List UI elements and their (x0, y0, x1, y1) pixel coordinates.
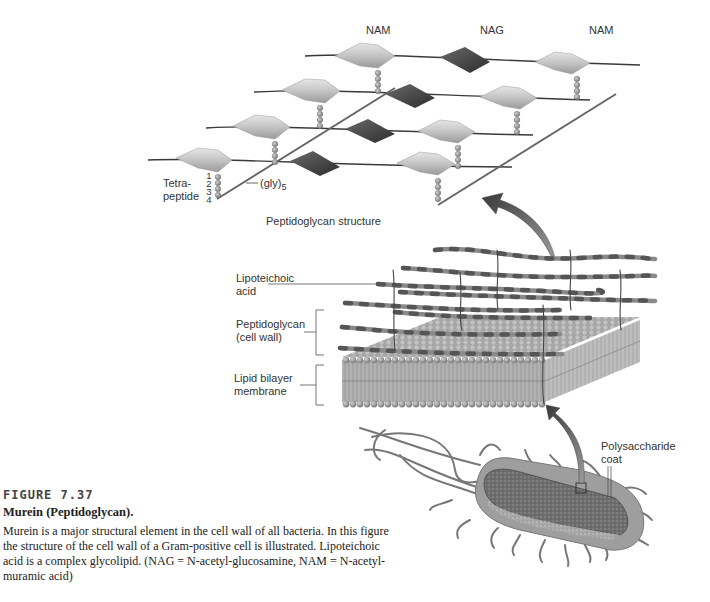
residue-number: 4 (205, 196, 213, 204)
figure-caption: FIGURE 7.37 Murein (Peptidoglycan). Mure… (3, 488, 398, 584)
glycine-bridge-label: (gly)5 (260, 177, 286, 194)
glycine-bridge-text: (gly) (260, 177, 281, 189)
peptidoglycan-lattice (148, 43, 640, 205)
lipoteichoic-acid-label: Lipoteichoic acid (236, 272, 294, 298)
figure-title: Murein (Peptidoglycan). (3, 505, 398, 520)
structure-caption: Peptidoglycan structure (266, 215, 381, 228)
figure-body: Murein is a major structural element in … (3, 524, 398, 584)
figure-number: FIGURE 7.37 (3, 488, 398, 502)
sugar-label-nam: NAM (589, 24, 613, 36)
glycine-bridge-subscript: 5 (281, 182, 286, 192)
lipid-bilayer-label: Lipid bilayer membrane (234, 372, 293, 398)
tetrapeptide-numbers: 1 2 3 4 (205, 172, 213, 204)
tetrapeptide-label: Tetra- peptide (163, 177, 199, 203)
sugar-label-nam: NAM (366, 24, 390, 36)
sugar-label-nag: NAG (480, 24, 504, 36)
curved-arrow-icon (482, 193, 555, 258)
polysaccharide-coat-label: Polysaccharide coat (601, 440, 676, 466)
peptidoglycan-label: Peptidoglycan (cell wall) (236, 318, 305, 344)
